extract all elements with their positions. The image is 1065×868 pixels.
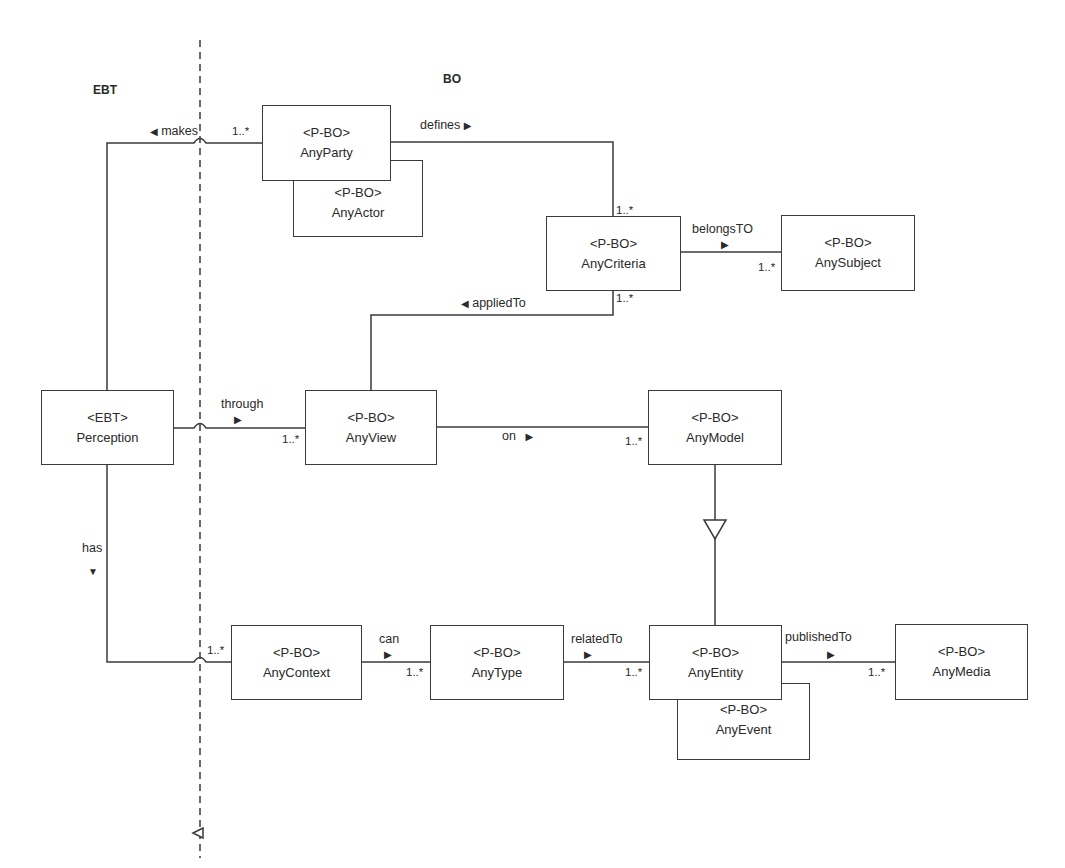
stereotype: <P-BO> (590, 234, 637, 254)
class-any-model[interactable]: <P-BO> AnyModel (648, 390, 782, 465)
mult-makes: 1..* (232, 125, 249, 137)
class-name: AnySubject (815, 253, 881, 273)
class-any-context[interactable]: <P-BO> AnyContext (231, 625, 362, 700)
generalization-triangle-icon (704, 520, 726, 539)
stereotype: <P-BO> (273, 643, 320, 663)
class-name: AnyActor (332, 203, 385, 223)
assoc-published-to-label: publishedTo (785, 630, 852, 644)
stereotype: <P-BO> (692, 643, 739, 663)
arrow-right-icon: ▶ (525, 431, 533, 442)
arrow-right-icon: ▶ (234, 412, 242, 426)
class-name: AnyEvent (716, 720, 772, 740)
zone-label-ebt: EBT (93, 83, 117, 97)
class-perception[interactable]: <EBT> Perception (41, 390, 174, 465)
stereotype: <P-BO> (474, 643, 521, 663)
class-name: AnyType (472, 663, 523, 683)
arrow-left-icon: ◀ (461, 298, 469, 309)
assoc-on-label: on ▶ (502, 429, 533, 443)
mult-through: 1..* (282, 433, 299, 445)
stereotype: <P-BO> (692, 408, 739, 428)
mult-belongs-to: 1..* (758, 261, 775, 273)
stereotype: <P-BO> (825, 233, 872, 253)
arrow-left-icon: ◀ (150, 126, 158, 137)
zone-label-bo: BO (443, 72, 461, 86)
class-name: AnyMedia (933, 662, 991, 682)
stereotype: <EBT> (87, 408, 127, 428)
class-any-party[interactable]: <P-BO> AnyParty (262, 105, 391, 181)
arrow-down-icon: ▼ (88, 564, 98, 578)
mult-has: 1..* (207, 644, 224, 656)
mult-on: 1..* (625, 435, 642, 447)
mult-can: 1..* (406, 666, 423, 678)
class-name: AnyParty (300, 143, 353, 163)
mult-related-to: 1..* (625, 666, 642, 678)
stereotype: <P-BO> (335, 183, 382, 203)
defines-line (390, 142, 613, 216)
assoc-defines-label: defines ▶ (420, 118, 472, 132)
mult-applied-to: 1..* (616, 292, 633, 304)
assoc-can-label: can (379, 632, 399, 646)
class-name: AnyEntity (688, 663, 743, 683)
class-any-media[interactable]: <P-BO> AnyMedia (895, 624, 1028, 700)
class-any-view[interactable]: <P-BO> AnyView (305, 390, 437, 465)
class-name: AnyView (346, 428, 396, 448)
stereotype: <P-BO> (303, 123, 350, 143)
class-name: AnyContext (263, 663, 330, 683)
uml-diagram: EBT BO <P-BO> AnyActor <P-BO> AnyParty <… (0, 0, 1065, 868)
arrow-right-icon: ▶ (584, 647, 592, 661)
assoc-related-to-label: relatedTo (571, 632, 622, 646)
assoc-has-label: has (82, 541, 102, 555)
assoc-belongs-to-label: belongsTO (692, 222, 753, 236)
arrow-right-icon: ▶ (827, 647, 835, 661)
arrow-right-icon: ▶ (464, 120, 472, 131)
assoc-through-label: through (221, 397, 263, 411)
mult-published-to: 1..* (868, 666, 885, 678)
class-any-entity[interactable]: <P-BO> AnyEntity (649, 625, 782, 700)
class-any-type[interactable]: <P-BO> AnyType (430, 625, 564, 700)
assoc-makes-label: ◀ makes (150, 124, 198, 138)
stereotype: <P-BO> (348, 408, 395, 428)
arrow-right-icon: ▶ (721, 237, 729, 251)
has-line (107, 464, 231, 662)
stereotype: <P-BO> (938, 642, 985, 662)
class-name: AnyModel (686, 428, 744, 448)
mult-defines: 1..* (616, 204, 633, 216)
class-any-criteria[interactable]: <P-BO> AnyCriteria (546, 216, 681, 291)
boundary-arrowhead-icon (193, 828, 203, 838)
makes-line (107, 139, 262, 393)
class-any-subject[interactable]: <P-BO> AnySubject (781, 215, 915, 291)
arrow-right-icon: ▶ (384, 647, 392, 661)
class-name: AnyCriteria (581, 254, 645, 274)
assoc-applied-to-label: ◀ appliedTo (461, 296, 526, 310)
stereotype: <P-BO> (720, 700, 767, 720)
class-name: Perception (76, 428, 138, 448)
